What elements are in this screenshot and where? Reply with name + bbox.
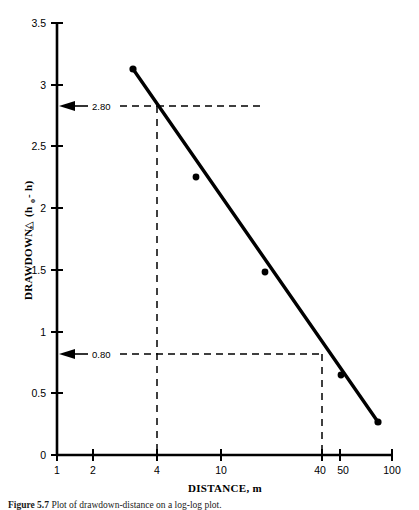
annotation-arrow-head (59, 349, 75, 359)
data-point (374, 418, 381, 425)
x-tick-labels: 1 2 4 10 40 50 100 (54, 464, 401, 476)
y-tick-label: 2.5 (31, 140, 46, 152)
best-fit-line (133, 69, 378, 422)
data-point (338, 372, 345, 379)
y-tick-label: 1 (40, 326, 46, 338)
y-axis-title-main: DRAWDOWN, (22, 225, 34, 300)
x-tick-label: 100 (383, 464, 401, 476)
data-series-drawdown (129, 65, 381, 425)
data-point (193, 174, 200, 181)
y-axis-title-paren-rest: - h) (22, 181, 35, 198)
x-tick-label: 4 (154, 464, 160, 476)
y-axis-title-subscript: o (28, 199, 37, 203)
data-point (129, 65, 136, 72)
figure-caption-label: Figure 5.7 (8, 500, 49, 510)
x-tick-label: 1 (54, 464, 60, 476)
annotation-value-0-80: 0.80 (92, 349, 111, 360)
y-tick-label: 3.5 (31, 17, 46, 29)
x-axis-title: DISTANCE, m (188, 482, 262, 494)
figure-caption: Figure 5.7 Plot of drawdown-distance on … (8, 500, 222, 510)
y-tick-label: 0.5 (31, 387, 46, 399)
y-tick-label: 2 (40, 202, 46, 214)
x-tick-label: 40 (314, 464, 326, 476)
y-tick-label: 3 (40, 79, 46, 91)
y-axis-title-paren-open: (h (22, 207, 35, 217)
annotation-2-80: 2.80 (59, 101, 260, 455)
y-axis-title: DRAWDOWN, △ (h o - h) (22, 181, 37, 300)
x-tick-label: 50 (337, 464, 349, 476)
delta-symbol: △ (22, 221, 34, 230)
x-tick-label: 2 (90, 464, 96, 476)
figure-caption-body: Plot of drawdown-distance on a log-log p… (51, 500, 221, 510)
y-tick-label: 0 (40, 449, 46, 461)
data-point (262, 269, 269, 276)
annotation-arrow-head (59, 101, 75, 111)
annotation-value-2-80: 2.80 (92, 101, 111, 112)
annotation-0-80: 0.80 (59, 349, 322, 455)
x-tick-label: 10 (215, 464, 227, 476)
